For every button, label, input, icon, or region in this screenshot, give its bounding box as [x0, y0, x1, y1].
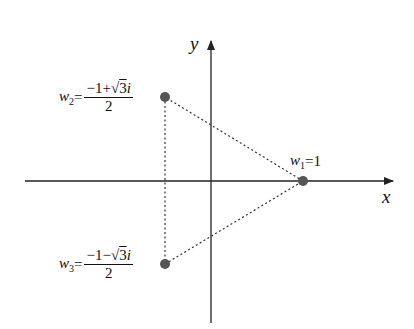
- label-w3: w3 = −1−√3i 2: [59, 248, 133, 281]
- w2-fraction: −1+√3i 2: [84, 81, 132, 114]
- point-w1: [298, 176, 308, 186]
- label-w1: w1 = 1: [290, 152, 321, 171]
- point-w3: [160, 259, 170, 269]
- w2-equals: =: [74, 89, 82, 106]
- x-axis-label: x: [382, 186, 390, 208]
- w2-numerator: −1+√3i: [84, 81, 132, 98]
- w1-equals: =: [305, 153, 313, 170]
- w2-name: w2: [59, 88, 74, 107]
- w3-name: w3: [59, 255, 74, 274]
- w3-numerator: −1−√3i: [84, 248, 132, 265]
- point-w2: [160, 92, 170, 102]
- edge-w1-w2: [165, 97, 303, 181]
- w3-denominator: 2: [105, 265, 113, 281]
- w1-name: w1: [290, 152, 305, 171]
- edge-w3-w1: [165, 181, 303, 264]
- w3-fraction: −1−√3i 2: [84, 248, 132, 281]
- y-axis-label: y: [190, 33, 198, 55]
- w3-equals: =: [74, 256, 82, 273]
- w1-value: 1: [313, 153, 321, 170]
- w2-denominator: 2: [105, 98, 113, 114]
- label-w2: w2 = −1+√3i 2: [59, 81, 133, 114]
